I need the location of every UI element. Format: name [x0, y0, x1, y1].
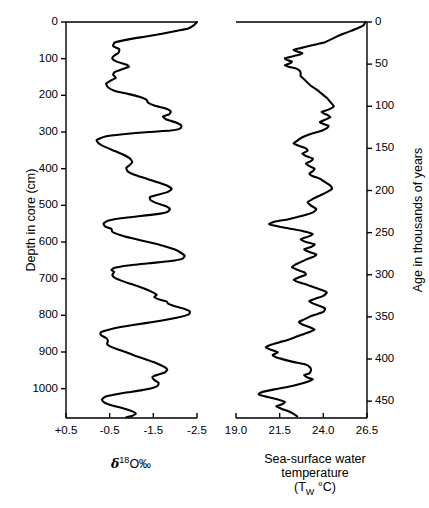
temperature-axis-title: Sea-surface water temperature (TW °C)	[264, 452, 365, 497]
plot-frame	[66, 22, 197, 418]
oxygen-symbol: O	[129, 457, 139, 471]
temperature-title-line2: temperature	[281, 466, 348, 480]
x-axis-tick-label: 26.5	[356, 425, 378, 437]
paleoclimate-figure: 01002003004005006007008009001000 +0.5-0.…	[0, 0, 429, 508]
y-axis-tick-label: 900	[0, 346, 58, 358]
temperature-title-line3-prefix: (T	[294, 480, 306, 494]
temperature-subscript-w: W	[306, 487, 315, 497]
isotope-axis-title: δ18O‰	[111, 455, 151, 471]
x-axis-tick-label: 19.0	[225, 425, 247, 437]
y-axis-tick-label: 300	[375, 269, 394, 281]
y-axis-tick-label: 700	[0, 273, 58, 285]
isotope-mass-number: 18	[119, 455, 129, 465]
y-axis-tick-label: 200	[375, 185, 394, 197]
x-axis-tick-label: 21.5	[268, 425, 290, 437]
y-axis-tick-label: 1000	[0, 383, 58, 395]
temperature-title-line3-suffix: °C)	[318, 480, 336, 494]
x-axis-tick-label: -0.5	[100, 425, 120, 437]
x-axis-tick-label: -1.5	[143, 425, 163, 437]
y-axis-tick-label: 250	[375, 227, 394, 239]
x-axis-tick-label: 24.0	[312, 425, 334, 437]
x-axis-tick-label: +0.5	[55, 425, 78, 437]
y-axis-tick-label: 300	[0, 126, 58, 138]
temperature-title-line1: Sea-surface water	[264, 452, 365, 466]
y-axis-tick-label: 0	[375, 16, 381, 28]
y-axis-tick-label: 450	[375, 395, 394, 407]
y-axis-tick-label: 100	[375, 101, 394, 113]
y-axis-tick-label: 400	[375, 353, 394, 365]
y-axis-tick-label: 200	[0, 90, 58, 102]
y-axis-tick-label: 50	[375, 58, 388, 70]
y-axis-tick-label: 150	[375, 143, 394, 155]
x-axis-tick-label: -2.5	[187, 425, 207, 437]
oxygen-isotope-panel: 01002003004005006007008009001000 +0.5-0.…	[0, 0, 215, 508]
depth-axis-title: Depth in core (cm)	[24, 169, 38, 272]
sea-surface-temperature-panel: 050100150200250300350400450 19.021.524.0…	[215, 0, 429, 508]
age-axis-title: Age in thousands of years	[411, 148, 425, 293]
y-axis-tick-label: 800	[0, 310, 58, 322]
per-mille-symbol: ‰	[139, 457, 151, 471]
oxygen-isotope-curve	[96, 22, 197, 417]
y-axis-tick-label: 0	[0, 16, 58, 28]
sea-surface-temperature-curve	[259, 22, 366, 416]
y-axis-tick-label: 100	[0, 53, 58, 65]
y-axis-tick-label: 350	[375, 311, 394, 323]
plot-frame	[236, 22, 367, 418]
